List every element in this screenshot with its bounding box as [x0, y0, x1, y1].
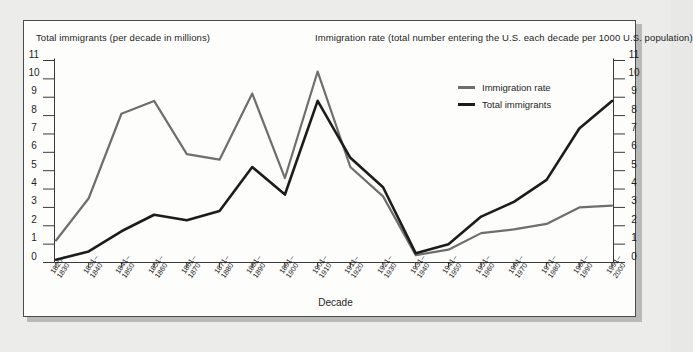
left-axis-title: Total immigrants (per decade in millions… [36, 32, 210, 43]
x-axis-title: Decade [0, 297, 671, 308]
y-tick-left-0: 0 [26, 251, 42, 262]
y-tick-left-3: 3 [26, 195, 42, 206]
y-tick-right-8: 8 [626, 104, 642, 115]
y-tick-left-6: 6 [26, 140, 42, 151]
y-tick-right-11: 11 [626, 49, 642, 60]
y-tick-right-9: 9 [626, 85, 642, 96]
y-tick-left-11: 11 [26, 49, 42, 60]
y-tick-left-1: 1 [26, 232, 42, 243]
legend-item-immigration-rate: Immigration rate [458, 79, 551, 96]
y-tick-right-0: 0 [626, 251, 642, 262]
y-tick-left-7: 7 [26, 122, 42, 133]
chart-legend: Immigration rate Total immigrants [458, 79, 551, 113]
y-tick-right-4: 4 [626, 177, 642, 188]
y-tick-right-2: 2 [626, 214, 642, 225]
y-tick-left-4: 4 [26, 177, 42, 188]
right-axis-title: Immigration rate (total number entering … [315, 32, 693, 43]
y-tick-right-5: 5 [626, 159, 642, 170]
legend-label-total-immigrants: Total immigrants [482, 99, 551, 110]
legend-swatch-immigration-rate [458, 86, 475, 89]
y-tick-left-10: 10 [26, 67, 42, 78]
legend-item-total-immigrants: Total immigrants [458, 96, 551, 113]
legend-label-immigration-rate: Immigration rate [482, 82, 551, 93]
y-tick-right-7: 7 [626, 122, 642, 133]
y-tick-right-3: 3 [626, 195, 642, 206]
y-tick-left-2: 2 [26, 214, 42, 225]
legend-swatch-total-immigrants [458, 103, 475, 106]
y-tick-right-1: 1 [626, 232, 642, 243]
y-tick-left-8: 8 [26, 104, 42, 115]
y-tick-left-9: 9 [26, 85, 42, 96]
y-tick-right-10: 10 [626, 67, 642, 78]
y-tick-right-6: 6 [626, 140, 642, 151]
y-tick-left-5: 5 [26, 159, 42, 170]
